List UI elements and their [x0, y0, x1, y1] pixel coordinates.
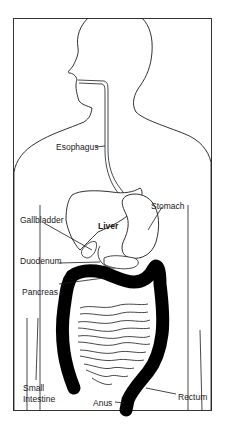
pancreas: [104, 256, 138, 269]
label-small-intestine-line2: Intestine: [23, 394, 55, 404]
label-small-intestine-line1: Small: [23, 383, 44, 393]
body-outline-right: [133, 18, 211, 162]
label-esophagus: Esophagus: [56, 142, 99, 152]
leader-rectum: [146, 388, 176, 394]
label-stomach: Stomach: [151, 201, 185, 211]
leader-duodenum: [59, 262, 100, 263]
small-intestine: [78, 304, 150, 385]
label-gallbladder: Gallbladder: [20, 215, 63, 225]
label-duodenum: Duodenum: [20, 256, 62, 266]
label-anus: Anus: [93, 398, 112, 408]
esophagus: [78, 80, 126, 196]
label-pancreas: Pancreas: [22, 287, 58, 297]
label-liver: Liver: [98, 221, 118, 231]
label-rectum: Rectum: [178, 392, 207, 402]
